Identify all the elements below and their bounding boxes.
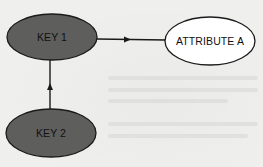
arrow-up-icon bbox=[47, 83, 53, 90]
diagram-canvas: KEY 1 KEY 2 ATTRIBUTE A bbox=[0, 0, 263, 167]
edge-key2-to-key1 bbox=[47, 60, 53, 109]
edge-key1-to-attribute-a bbox=[97, 37, 166, 43]
node-attribute-a-label: ATTRIBUTE A bbox=[176, 35, 244, 47]
node-key-1-label: KEY 1 bbox=[37, 31, 67, 43]
node-key-2[interactable]: KEY 2 bbox=[6, 109, 96, 157]
arrow-right-icon bbox=[124, 37, 131, 43]
node-key-1[interactable]: KEY 1 bbox=[7, 14, 97, 60]
node-attribute-a[interactable]: ATTRIBUTE A bbox=[165, 17, 255, 65]
diagram-svg: KEY 1 KEY 2 ATTRIBUTE A bbox=[0, 0, 263, 167]
node-key-2-label: KEY 2 bbox=[36, 127, 66, 139]
